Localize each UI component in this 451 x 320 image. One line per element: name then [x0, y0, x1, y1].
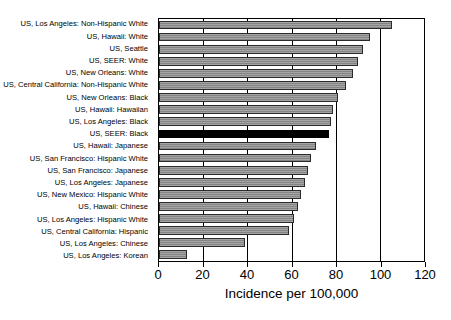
category-label: US, Central California: Non-Hispanic Whi…	[0, 79, 152, 91]
category-label: US, SEER: White	[0, 55, 152, 67]
bar-row	[159, 140, 424, 152]
category-label: US, Los Angeles: Black	[0, 116, 152, 128]
bar	[159, 117, 331, 126]
category-label: US, Los Angeles: Japanese	[0, 177, 152, 189]
bar	[159, 226, 289, 235]
bar	[159, 21, 392, 30]
bar-row	[159, 213, 424, 225]
category-label: US, Hawaii: White	[0, 30, 152, 42]
category-label: US, New Mexico: Hispanic White	[0, 189, 152, 201]
bar	[159, 202, 298, 211]
bar	[159, 166, 308, 175]
x-tick-label: 120	[414, 267, 436, 282]
bar-row	[159, 237, 424, 249]
x-axis: 020406080100120	[158, 262, 425, 284]
bar-row	[159, 79, 424, 91]
bar	[159, 93, 338, 102]
x-tick-label: 100	[370, 267, 392, 282]
bar-row	[159, 92, 424, 104]
bar-row	[159, 43, 424, 55]
category-label: US, Hawaii: Japanese	[0, 140, 152, 152]
category-label: US, Los Angeles: Chinese	[0, 238, 152, 250]
category-label: US, San Francisco: Hispanic White	[0, 152, 152, 164]
x-tick-label: 80	[329, 267, 343, 282]
bar-row	[159, 188, 424, 200]
bar	[159, 69, 353, 78]
bar	[159, 33, 370, 42]
category-label: US, Hawaii: Hawaiian	[0, 103, 152, 115]
category-label: US, New Orleans: Black	[0, 91, 152, 103]
bar	[159, 178, 305, 187]
category-label: US, Los Angeles: Korean	[0, 250, 152, 262]
category-label: US, Los Angeles: Hispanic White	[0, 213, 152, 225]
bar-row	[159, 164, 424, 176]
bar	[159, 190, 301, 199]
plot-area	[158, 18, 425, 262]
x-tick-label: 20	[195, 267, 209, 282]
bar-series	[159, 19, 424, 261]
bar	[159, 130, 329, 139]
category-axis-labels: US, Los Angeles: Non-Hispanic WhiteUS, H…	[0, 18, 152, 262]
bar-row	[159, 128, 424, 140]
bar-row	[159, 225, 424, 237]
bar	[159, 250, 187, 259]
bar	[159, 154, 311, 163]
bar-row	[159, 19, 424, 31]
category-label: US, New Orleans: White	[0, 67, 152, 79]
bar	[159, 81, 346, 90]
category-label: US, SEER: Black	[0, 128, 152, 140]
category-label: US, Central California: Hispanic	[0, 225, 152, 237]
x-axis-title: Incidence per 100,000	[158, 286, 425, 301]
bar-row	[159, 116, 424, 128]
category-label: US, San Francisco: Japanese	[0, 164, 152, 176]
bar	[159, 214, 294, 223]
bar	[159, 238, 245, 247]
bar-row	[159, 31, 424, 43]
bar	[159, 105, 333, 114]
x-tick-label: 40	[240, 267, 254, 282]
bar-row	[159, 200, 424, 212]
bar-row	[159, 67, 424, 79]
bar-row	[159, 152, 424, 164]
x-tick-label: 0	[154, 267, 161, 282]
bar-row	[159, 176, 424, 188]
bar-row	[159, 249, 424, 261]
bar-row	[159, 55, 424, 67]
category-label: US, Los Angeles: Non-Hispanic White	[0, 18, 152, 30]
incidence-bar-chart: US, Los Angeles: Non-Hispanic WhiteUS, H…	[0, 0, 451, 320]
bar	[159, 57, 358, 66]
x-tick-label: 60	[284, 267, 298, 282]
bar	[159, 45, 363, 54]
bar	[159, 142, 316, 151]
bar-row	[159, 104, 424, 116]
category-label: US, Hawaii: Chinese	[0, 201, 152, 213]
category-label: US, Seattle	[0, 42, 152, 54]
